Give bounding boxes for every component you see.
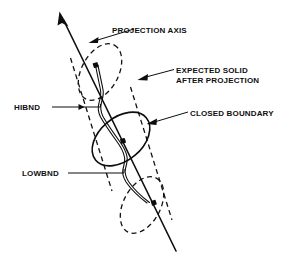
closed-boundary-leader [147,112,189,125]
hibnd-leader-tick [79,104,85,110]
label-expected-solid-line1: EXPECTED SOLID [176,66,248,75]
projection-axis-arrowhead [58,12,69,27]
hibnd-leader [52,104,101,110]
boundary-trace-curve [96,66,148,204]
hibnd-leader-line [52,104,101,107]
closed-boundary-leader-line [156,112,188,122]
label-hibnd: HIBND [14,103,40,112]
projection-axis-leader-arrowhead [89,37,99,43]
label-lowbnd: LOWBND [22,169,59,178]
label-expected-solid-line2: AFTER PROJECTION [176,76,259,85]
expected-solid-leader [138,70,175,81]
lowbnd-leader-line [68,169,124,173]
label-projection-axis: PROJECTION AXIS [112,26,187,35]
expected-solid-leader-arrowhead [138,74,149,81]
expected-solid-leader-line [146,70,174,78]
projection-axis-figure: PROJECTION AXIS EXPECTED SOLID AFTER PRO… [0,0,298,264]
label-closed-boundary: CLOSED BOUNDARY [190,109,274,118]
diagram-canvas: PROJECTION AXIS EXPECTED SOLID AFTER PRO… [0,0,298,264]
lowbnd-leader [68,169,124,173]
